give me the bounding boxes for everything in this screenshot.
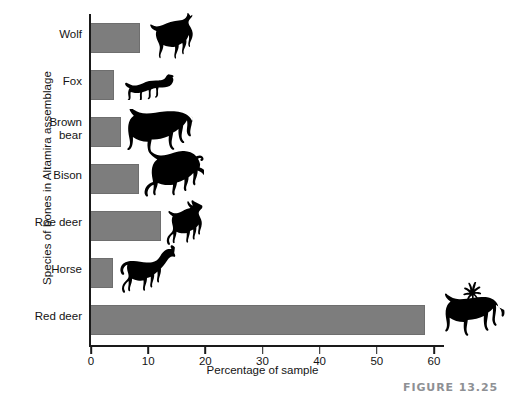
category-label-wolf: Wolf	[0, 28, 82, 41]
brown-bear-silhouette	[124, 109, 194, 155]
bar-bison[interactable]	[91, 164, 139, 194]
x-tick-40	[319, 347, 321, 354]
bar-red-deer[interactable]	[91, 305, 425, 335]
bar-wolf[interactable]	[91, 23, 140, 53]
bar-brown-bear[interactable]	[91, 117, 121, 147]
bar-row-horse: Horse	[91, 249, 434, 296]
x-tick-30	[262, 347, 264, 354]
plot-area: 0 10 20 30 40 50 60 Wolf Fox	[91, 14, 434, 345]
bison-silhouette	[142, 151, 204, 201]
category-label-red-deer: Red deer	[0, 310, 82, 323]
bar-row-wolf: Wolf	[91, 14, 434, 61]
red-deer-silhouette	[428, 282, 506, 347]
bar-row-bison: Bison	[91, 155, 434, 202]
bar-row-red-deer: Red deer	[91, 296, 434, 343]
x-axis-spine	[89, 345, 444, 347]
category-label-roe-deer: Roe deer	[0, 216, 82, 229]
x-tick-60	[433, 347, 435, 354]
wolf-silhouette	[143, 13, 199, 61]
x-tick-10	[147, 347, 149, 354]
bar-row-roe-deer: Roe deer	[91, 202, 434, 249]
category-label-horse: Horse	[0, 263, 82, 276]
roe-deer-silhouette	[164, 200, 204, 248]
figure-container: Species of bones in Altamira assemblage …	[0, 0, 512, 402]
category-label-fox: Fox	[0, 75, 82, 88]
fox-silhouette	[117, 74, 175, 100]
category-label-bison: Bison	[0, 169, 82, 182]
bar-fox[interactable]	[91, 70, 114, 100]
horse-silhouette	[116, 245, 178, 299]
category-label-brown-bear: Brown bear	[0, 116, 82, 142]
x-axis-title: Percentage of sample	[91, 364, 434, 376]
x-tick-0	[90, 347, 92, 354]
x-tick-20	[204, 347, 206, 354]
bar-roe-deer[interactable]	[91, 211, 161, 241]
bar-row-fox: Fox	[91, 61, 434, 108]
figure-caption: FIGURE 13.25	[403, 381, 498, 394]
bar-row-brown-bear: Brown bear	[91, 108, 434, 155]
x-tick-50	[376, 347, 378, 354]
bar-horse[interactable]	[91, 258, 113, 288]
